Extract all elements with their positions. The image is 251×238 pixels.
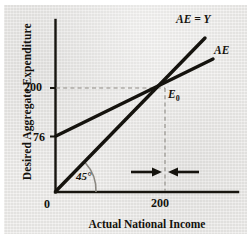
- x-axis-label: Actual National Income: [55, 219, 239, 231]
- angle-label-45: 45°: [76, 171, 91, 182]
- economics-chart-figure: Desired Aggregate Expenditure Actual Nat…: [0, 0, 251, 238]
- arrow-left-to-right: [131, 168, 162, 177]
- y-tick-label-200: 200: [24, 81, 42, 93]
- origin-label: 0: [44, 198, 50, 210]
- curve-label-ae-equals-y: AE = Y: [176, 14, 210, 26]
- equilibrium-subscript: 0: [176, 94, 180, 103]
- curve-ae-equals-y: [56, 38, 205, 191]
- curve-ae: [56, 59, 213, 136]
- y-axis-label: Desired Aggregate Expenditure: [22, 22, 34, 182]
- arrow-right-to-left: [168, 168, 199, 177]
- curve-label-ae: AE: [214, 45, 229, 57]
- chart-plot-area: [0, 0, 251, 238]
- equilibrium-point-label: E0: [168, 89, 180, 103]
- y-tick-label-76: 76: [33, 131, 45, 143]
- equilibrium-letter: E: [168, 88, 176, 100]
- x-tick-label-200: 200: [151, 197, 169, 209]
